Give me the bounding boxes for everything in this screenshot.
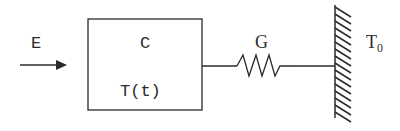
input-arrow-icon [20, 60, 67, 70]
input-label: E [31, 34, 41, 53]
reservoir-label: T0 [366, 32, 383, 55]
temperature-label: T(t) [120, 82, 161, 101]
capacitance-label: C [140, 34, 150, 53]
thermal-diagram: E C T(t) G T0 [0, 0, 400, 131]
resistor-icon [202, 55, 335, 76]
hatched-wall-icon [335, 5, 351, 122]
conductance-label: G [255, 32, 268, 52]
